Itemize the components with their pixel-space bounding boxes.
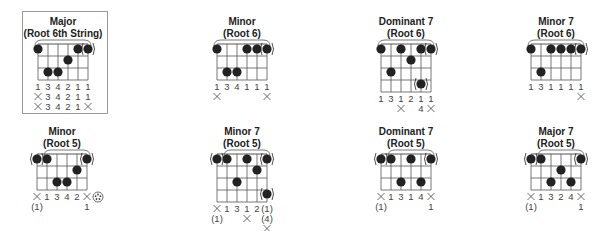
finger-number: 1 — [75, 101, 80, 112]
chord-diagram-major-root6: Major(Root 6th String)134211342113421 — [3, 16, 123, 126]
finger-number: 1 — [428, 201, 433, 212]
finger-dot — [536, 154, 545, 163]
finger-dot — [406, 55, 415, 64]
optional-finger-dot — [525, 153, 538, 165]
finger-number: 1 — [44, 191, 49, 202]
finger-dot — [416, 177, 425, 186]
finger-dot — [536, 67, 545, 76]
finger-number: 2 — [254, 203, 259, 214]
muted-string-icon — [35, 103, 42, 110]
muted-string-icon — [528, 193, 535, 200]
muted-string-icon — [428, 105, 435, 112]
finger-dot — [556, 44, 565, 53]
optional-finger-dot — [425, 43, 438, 55]
finger-number: 1 — [84, 201, 89, 212]
finger-dot — [546, 44, 555, 53]
finger-dot — [546, 177, 555, 186]
optional-finger-dot — [81, 153, 94, 165]
optional-finger-dot — [31, 153, 44, 165]
finger-dot — [252, 165, 261, 174]
muted-string-icon — [378, 193, 385, 200]
finger-dot — [42, 154, 51, 163]
finger-number: 1 — [528, 81, 533, 92]
muted-string-icon — [35, 93, 42, 100]
optional-finger-dot — [261, 153, 274, 165]
finger-number: 1 — [35, 81, 40, 92]
finger-number: 1 — [254, 81, 259, 92]
finger-dot — [43, 67, 52, 76]
finger-number: 1 — [558, 81, 563, 92]
muted-string-icon — [34, 193, 41, 200]
finger-number: 3 — [398, 191, 403, 202]
finger-number: 1 — [568, 81, 573, 92]
muted-string-icon — [398, 105, 405, 112]
finger-dot — [232, 177, 241, 186]
fretboard-grid: 1342(1)1 — [2, 126, 122, 231]
finger-number: 4 — [418, 103, 423, 114]
finger-dot — [63, 55, 72, 64]
finger-dot — [556, 165, 565, 174]
finger-number: 4 — [418, 191, 423, 202]
finger-dot — [406, 154, 415, 163]
finger-number: 1 — [244, 81, 249, 92]
fretboard-grid: 131111 — [496, 16, 615, 131]
finger-dot — [222, 154, 231, 163]
finger-number: 2 — [74, 191, 79, 202]
finger-number: 1 — [224, 203, 229, 214]
muted-string-icon — [264, 225, 271, 231]
optional-finger-dot — [425, 153, 438, 165]
finger-dot — [526, 44, 535, 53]
finger-number: (1) — [375, 201, 387, 212]
muted-string-icon — [428, 193, 435, 200]
muted-string-icon — [578, 193, 585, 200]
chord-diagram-dominant7-root5: Dominant 7(Root 5)1314(1)1 — [346, 126, 466, 231]
fretboard-grid: 1312114 — [346, 16, 466, 131]
finger-number: (1) — [525, 201, 537, 212]
finger-dot — [33, 44, 42, 53]
finger-number: 4 — [64, 191, 69, 202]
muted-string-icon — [578, 93, 585, 100]
optional-finger-dot — [575, 153, 588, 165]
muted-string-icon — [264, 93, 271, 100]
finger-number: 3 — [388, 93, 393, 104]
finger-dot — [396, 44, 405, 53]
chord-diagram-dominant7-root6: Dominant 7(Root 6)1312114 — [346, 16, 466, 126]
finger-number: 1 — [578, 201, 583, 212]
chord-diagram-minor7-root5: Minor 7(Root 5)1312(1)(1)(4) — [182, 126, 302, 231]
finger-dot — [52, 177, 61, 186]
finger-dot — [62, 177, 71, 186]
finger-number: 3 — [234, 203, 239, 214]
finger-number: 3 — [45, 101, 50, 112]
muted-string-icon — [84, 193, 91, 200]
muted-string-icon — [244, 215, 251, 222]
finger-dot — [212, 44, 221, 53]
finger-dot — [53, 67, 62, 76]
finger-number: 3 — [54, 191, 59, 202]
fretboard-grid: 1312(1)(1)(4) — [182, 126, 302, 231]
circled-dots-icon — [93, 192, 103, 202]
finger-number: 1 — [538, 191, 543, 202]
finger-dot — [386, 154, 395, 163]
finger-number: (4) — [261, 213, 273, 224]
fretboard-grid: 1324(1)1 — [496, 126, 615, 231]
finger-number: 2 — [558, 191, 563, 202]
optional-finger-dot — [211, 153, 224, 165]
finger-number: 1 — [214, 81, 219, 92]
optional-finger-dot — [82, 43, 95, 55]
finger-dot — [386, 67, 395, 76]
finger-number: 1 — [378, 93, 383, 104]
finger-number: 1 — [578, 81, 583, 92]
finger-number: 4 — [568, 191, 573, 202]
optional-finger-dot — [261, 43, 274, 55]
finger-number: 1 — [85, 91, 90, 102]
muted-string-icon — [85, 103, 92, 110]
chord-diagram-major7-root5: Major 7(Root 5)1324(1)1 — [496, 126, 615, 231]
finger-dot — [232, 67, 241, 76]
muted-string-icon — [214, 93, 221, 100]
finger-dot — [222, 67, 231, 76]
finger-number: 1 — [244, 203, 249, 214]
finger-number: 2 — [65, 101, 70, 112]
finger-number: 3 — [224, 81, 229, 92]
finger-number: 1 — [428, 93, 433, 104]
finger-number: (1) — [31, 201, 43, 212]
